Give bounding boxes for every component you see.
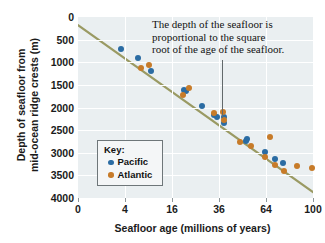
x-tick-label: 100 xyxy=(293,204,325,215)
data-point-pacific xyxy=(244,136,250,142)
x-tick-mark xyxy=(266,198,267,202)
y-axis-label-line2: mid-ocean ridge crests (m) xyxy=(28,20,41,190)
x-tick-label: 64 xyxy=(246,204,286,215)
data-point-pacific xyxy=(148,68,154,74)
data-point-atlantic xyxy=(294,163,300,169)
y-axis-label: Depth of seafloor from mid-ocean ridge c… xyxy=(15,20,41,190)
annotation-pointer-line xyxy=(222,60,223,118)
data-point-atlantic xyxy=(138,65,144,71)
gridline-horizontal xyxy=(78,198,313,199)
data-point-atlantic xyxy=(272,162,278,168)
gridline-horizontal xyxy=(78,85,313,86)
x-tick-label: 36 xyxy=(199,204,239,215)
x-tick-label: 16 xyxy=(152,204,192,215)
x-axis-label: Seafloor age (millions of years) xyxy=(60,222,325,234)
x-tick-mark xyxy=(125,198,126,202)
data-point-atlantic xyxy=(267,134,273,140)
x-tick-label: 4 xyxy=(105,204,145,215)
x-tick-mark xyxy=(313,198,314,202)
x-tick-label: 0 xyxy=(58,204,98,215)
legend-swatch-atlantic xyxy=(108,172,114,178)
data-point-atlantic xyxy=(248,143,254,149)
data-point-atlantic xyxy=(281,168,287,174)
data-point-pacific xyxy=(135,55,141,61)
data-point-atlantic xyxy=(309,165,315,171)
legend-item-atlantic: Atlantic xyxy=(104,169,162,182)
data-point-pacific xyxy=(118,46,124,52)
data-point-atlantic xyxy=(237,139,243,145)
data-point-atlantic xyxy=(146,62,152,68)
legend-title: Key: xyxy=(104,144,162,156)
y-axis-label-line1: Depth of seafloor from xyxy=(15,20,28,190)
gridline-horizontal xyxy=(78,108,313,109)
annotation-line-3: root of the age of the seafloor. xyxy=(152,43,322,56)
data-point-pacific xyxy=(280,160,286,166)
x-tick-mark xyxy=(219,198,220,202)
legend-label-pacific: Pacific xyxy=(118,156,149,169)
data-point-atlantic xyxy=(262,154,268,160)
annotation-line-2: proportional to the square xyxy=(152,31,322,44)
annotation-text: The depth of the seafloor is proportiona… xyxy=(152,18,322,56)
data-point-atlantic xyxy=(180,92,186,98)
legend-item-pacific: Pacific xyxy=(104,156,162,169)
x-tick-mark xyxy=(78,198,79,202)
y-tick-label: 4000 xyxy=(30,193,74,203)
gridline-horizontal xyxy=(78,130,313,131)
legend: Key: Pacific Atlantic xyxy=(97,140,163,186)
seafloor-depth-chart: 05001000150020002500300035004000 0416366… xyxy=(0,0,325,243)
x-tick-mark xyxy=(172,198,173,202)
data-point-atlantic xyxy=(186,85,192,91)
annotation-line-1: The depth of the seafloor is xyxy=(152,18,322,31)
legend-swatch-pacific xyxy=(108,160,114,166)
gridline-horizontal xyxy=(78,62,313,63)
legend-label-atlantic: Atlantic xyxy=(118,169,153,182)
